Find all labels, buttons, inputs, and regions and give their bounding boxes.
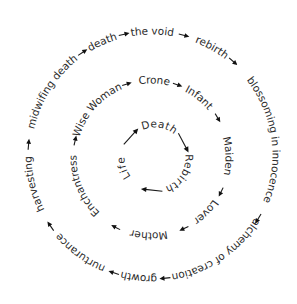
outer-ring-label: death xyxy=(85,30,118,53)
middle-ring-label-text: Maiden xyxy=(221,135,236,177)
middle-ring-label-text: Crone xyxy=(138,73,172,87)
arrow-head-icon xyxy=(47,222,52,227)
concentric-cycle-rings: the voidrebirthblossoming in innocenceal… xyxy=(0,0,297,304)
middle-ring-label: Infant xyxy=(184,83,216,112)
arrow-head-icon xyxy=(141,187,147,192)
arrow-head-icon xyxy=(126,82,132,87)
arrow-stem xyxy=(78,51,84,55)
middle-ring-label-text: Wise Woman xyxy=(70,80,124,138)
arrow-icon xyxy=(122,82,132,87)
middle-ring-label-text: Lover xyxy=(191,198,221,228)
outer-ring-label-text: alchemy of creation xyxy=(171,217,263,284)
arrow-icon xyxy=(179,226,188,230)
arrow-stem xyxy=(28,143,29,150)
arrow-icon xyxy=(178,133,188,152)
outer-ring-label: alchemy of creation xyxy=(171,217,263,284)
outer-ring-label: rebirth xyxy=(194,33,231,61)
middle-ring-label-text: Mother xyxy=(128,228,169,243)
outer-ring-label: the void xyxy=(130,24,175,38)
arrow-head-icon xyxy=(159,276,164,281)
middle-ring-label: Mother xyxy=(128,228,169,243)
arrow-stem xyxy=(145,189,162,191)
outer-ring-label-text: the void xyxy=(130,24,175,38)
outer-ring-label: blossoming in innocence xyxy=(245,74,283,205)
arrow-stem xyxy=(119,34,126,36)
outer-ring-label: midwifing death xyxy=(24,52,79,130)
arrow-icon xyxy=(215,114,220,123)
arrow-stem xyxy=(163,278,170,279)
arrow-head-icon xyxy=(26,139,31,144)
arrow-icon xyxy=(124,128,138,144)
arrow-stem xyxy=(50,225,54,231)
arrow-icon xyxy=(111,225,120,230)
arrow-icon xyxy=(73,136,78,146)
inner-ring-label-text: Life xyxy=(114,156,132,182)
inner-ring-label-text: Rebirth xyxy=(163,154,195,196)
arrow-head-icon xyxy=(108,270,114,275)
inner-ring-label: Death xyxy=(140,117,181,136)
arrow-icon xyxy=(141,187,163,192)
middle-ring-label: Lover xyxy=(191,198,221,228)
arrow-stem xyxy=(179,34,186,36)
middle-ring-label: Enchantress xyxy=(66,155,101,220)
inner-ring-label: Rebirth xyxy=(163,154,195,196)
outer-ring-label: nurturance xyxy=(52,231,106,275)
middle-ring-label-text: Enchantress xyxy=(66,155,101,220)
arrow-icon xyxy=(179,33,190,38)
arrow-icon xyxy=(78,49,87,55)
outer-ring-label-text: blossoming in innocence xyxy=(245,74,283,205)
outer-ring-label-text: midwifing death xyxy=(24,52,79,130)
outer-ring-label-text: death xyxy=(85,30,118,53)
spiral-cycle-diagram: the voidrebirthblossoming in innocenceal… xyxy=(0,0,297,304)
outer-ring-label: harvesting xyxy=(21,156,46,214)
arrow-stem xyxy=(112,272,119,274)
arrow-icon xyxy=(26,139,31,150)
arrow-head-icon xyxy=(184,33,189,38)
arrow-stem xyxy=(124,132,136,145)
arrow-icon xyxy=(119,32,130,37)
arrow-head-icon xyxy=(177,83,183,88)
arrow-icon xyxy=(47,222,53,231)
arrow-icon xyxy=(229,58,237,65)
arrow-head-icon xyxy=(82,49,87,54)
arrow-icon xyxy=(173,83,182,88)
arrow-icon xyxy=(219,188,223,197)
inner-ring-cycle: DeathRebirthLife xyxy=(114,117,195,196)
inner-ring-label: Life xyxy=(114,156,132,182)
middle-ring-label: Wise Woman xyxy=(70,80,124,138)
arrow-stem xyxy=(257,214,261,220)
arrow-head-icon xyxy=(124,32,129,37)
middle-ring-label: Crone xyxy=(138,73,172,87)
arrow-stem xyxy=(229,58,234,63)
arrow-icon xyxy=(108,270,118,275)
middle-ring-cycle: CroneInfantMaidenLoverMotherEnchantressW… xyxy=(66,73,235,242)
outer-ring-cycle: the voidrebirthblossoming in innocenceal… xyxy=(21,24,282,285)
arrow-stem xyxy=(178,133,186,148)
outer-ring-label: growth xyxy=(119,270,157,286)
outer-ring-label-text: harvesting xyxy=(21,156,46,214)
middle-ring-label: Maiden xyxy=(221,135,236,177)
arrow-icon xyxy=(159,276,170,281)
outer-ring-label-text: rebirth xyxy=(194,33,231,61)
outer-ring-label-text: growth xyxy=(119,270,157,286)
middle-ring-label-text: Infant xyxy=(184,83,216,112)
inner-ring-label-text: Death xyxy=(140,117,181,136)
outer-ring-label-text: nurturance xyxy=(52,231,106,275)
